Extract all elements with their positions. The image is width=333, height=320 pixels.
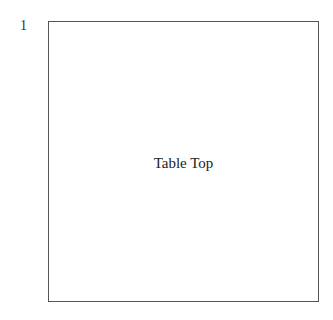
table-top-label: Table Top — [49, 155, 318, 172]
page-number: 1 — [20, 18, 27, 34]
table-top-rectangle: Table Top — [48, 21, 319, 302]
